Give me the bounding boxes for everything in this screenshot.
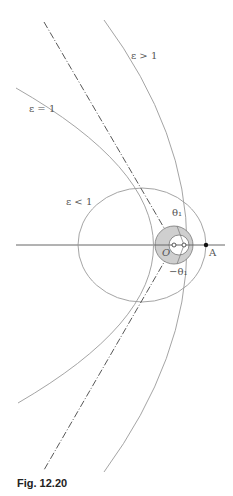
theta-label: θ₁: [172, 207, 182, 218]
origin-label: O: [162, 247, 170, 258]
neg-theta-label: −θ₁: [169, 266, 187, 277]
ellipse-label: ε < 1: [66, 196, 92, 207]
dashed-line-lower: [44, 245, 174, 470]
hyperbola-label: ε > 1: [131, 50, 157, 61]
figure-caption: Fig. 12.20: [17, 477, 67, 489]
parabola-label: ε = 1: [29, 103, 55, 114]
focus-point: [182, 243, 186, 247]
apse-point: [204, 243, 208, 247]
apse-label: A: [209, 247, 216, 258]
origin-point: [172, 243, 176, 247]
orbit-diagram: [0, 0, 233, 496]
